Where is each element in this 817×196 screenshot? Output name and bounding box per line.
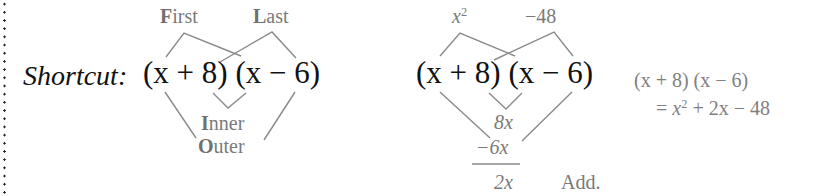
inner-initial: I	[201, 112, 209, 134]
line2-base: x	[672, 97, 681, 119]
first-product: x2	[452, 6, 467, 26]
sum-result: 2x	[494, 172, 513, 192]
add-label: Add.	[561, 172, 600, 192]
outer-initial: O	[198, 135, 214, 157]
outer-connector-left	[165, 92, 196, 138]
inner-product: 8x	[494, 112, 513, 132]
label-outer: Outer	[198, 136, 245, 156]
inner-connector-line	[213, 93, 246, 108]
left-expression-text: (x + 8) (x − 6)	[143, 55, 320, 90]
line2-rest: + 2x − 48	[687, 97, 770, 119]
first-rest: irst	[172, 5, 198, 27]
outer-right-connector	[522, 92, 572, 141]
label-inner: Inner	[201, 113, 244, 133]
left-expression: (x + 8) (x − 6)	[143, 57, 320, 88]
first-connector-line	[166, 33, 241, 57]
label-first: First	[160, 6, 198, 26]
middle-expression: (x + 8) (x − 6)	[416, 57, 593, 88]
equals-sign: =	[656, 97, 672, 119]
outer-rest: uter	[214, 135, 245, 157]
last-initial: L	[253, 5, 266, 27]
inner-8x-connector-line	[489, 93, 522, 109]
outer-product: −6x	[476, 137, 508, 157]
outer-connector-right	[264, 92, 295, 140]
first-initial: F	[160, 5, 172, 27]
right-expression-line1: (x + 8) (x − 6)	[634, 70, 748, 90]
right-expression-line2: = x2 + 2x − 48	[656, 98, 770, 118]
last-product: −48	[525, 6, 556, 26]
label-last: Last	[253, 6, 289, 26]
inner-rest: nner	[209, 112, 245, 134]
last-rest: ast	[266, 5, 288, 27]
first-product-base: x	[452, 5, 461, 27]
x-squared-connector-line	[440, 33, 515, 56]
shortcut-label: Shortcut:	[23, 62, 127, 90]
outer-left-connector	[440, 92, 490, 138]
first-product-exponent: 2	[461, 5, 467, 19]
